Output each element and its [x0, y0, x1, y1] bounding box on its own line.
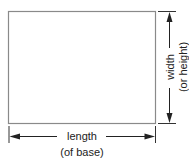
width-label-sub: (or height): [177, 42, 189, 92]
length-label-sub: (of base): [60, 146, 103, 158]
length-dimension: length (of base): [9, 126, 156, 158]
rectangle-diagram: width (or height) length (of base): [0, 0, 189, 165]
arrow-left-icon: [10, 134, 21, 140]
arrow-down-icon: [167, 113, 173, 123]
arrow-right-icon: [145, 134, 156, 140]
width-label: width: [164, 54, 176, 81]
arrow-up-icon: [167, 12, 173, 22]
rectangle: [9, 12, 156, 124]
length-label: length: [67, 130, 97, 142]
width-dimension: width (or height): [158, 12, 189, 124]
